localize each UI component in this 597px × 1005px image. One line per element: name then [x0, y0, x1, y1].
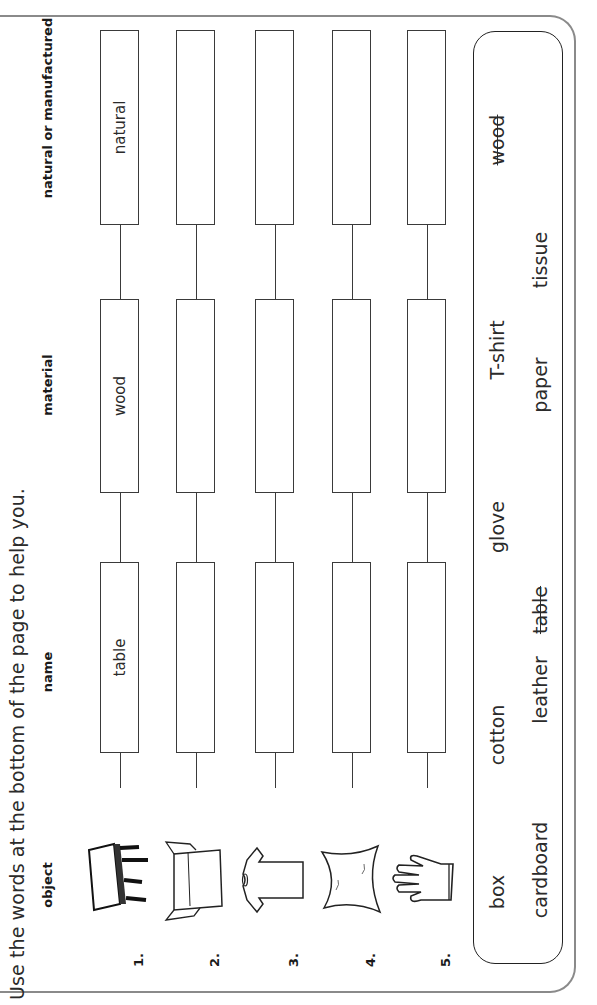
word-bank-word: T-shirt [486, 320, 508, 379]
natural-or-manufactured-answer-box[interactable] [332, 30, 371, 225]
natural-or-manufactured-answer-box[interactable]: natural [100, 30, 139, 225]
connector-line [427, 493, 428, 562]
material-answer-box[interactable] [176, 299, 215, 493]
material-answer: wood [111, 376, 129, 416]
row-number: 1. [130, 953, 145, 967]
connector-line [427, 753, 428, 788]
table-icon [84, 825, 154, 935]
material-answer-box[interactable] [407, 299, 446, 493]
row-number: 3. [285, 953, 300, 967]
name-answer-box[interactable] [255, 562, 294, 753]
word-bank-word: wood [486, 115, 508, 166]
natural-or-manufactured-answer-box[interactable] [255, 30, 294, 225]
connector-line [196, 493, 197, 562]
word-bank-word: table [529, 586, 551, 634]
material-answer-box[interactable] [255, 299, 294, 493]
word-bank-word: paper [529, 357, 551, 412]
t-shirt-icon [239, 825, 309, 935]
row-number: 2. [206, 953, 221, 967]
material-answer-box[interactable]: wood [100, 299, 139, 493]
tissue-icon [316, 825, 386, 935]
name-answer-box[interactable] [332, 562, 371, 753]
instruction-text: Use the words at the bottom of the page … [6, 488, 28, 1000]
connector-line [120, 753, 121, 788]
word-bank-word: glove [486, 501, 508, 553]
connector-line [196, 753, 197, 788]
header-natural-or-manufactured: natural or manufactured [40, 18, 55, 199]
connector-line [120, 493, 121, 562]
natural-or-manufactured-answer: natural [111, 101, 129, 155]
worksheet-page: Use the words at the bottom of the page … [0, 0, 597, 1005]
word-bank-word: leather [529, 656, 551, 724]
word-bank-word: cotton [486, 705, 508, 766]
connector-line [427, 225, 428, 299]
name-answer-box[interactable] [176, 562, 215, 753]
box-icon [160, 825, 230, 935]
connector-line [352, 225, 353, 299]
name-answer-box[interactable]: table [100, 562, 139, 753]
word-bank-word: cardboard [529, 822, 551, 919]
header-object: object [40, 862, 55, 907]
row-number: 4. [362, 953, 377, 967]
row-number: 5. [437, 953, 452, 967]
glove-icon [391, 825, 461, 935]
connector-line [275, 753, 276, 788]
header-material: material [40, 354, 55, 415]
header-name: name [40, 652, 55, 692]
connector-line [352, 753, 353, 788]
connector-line [352, 493, 353, 562]
name-answer-box[interactable] [407, 562, 446, 753]
connector-line [275, 493, 276, 562]
word-bank-word: tissue [529, 232, 551, 288]
natural-or-manufactured-answer-box[interactable] [407, 30, 446, 225]
connector-line [196, 225, 197, 299]
natural-or-manufactured-answer-box[interactable] [176, 30, 215, 225]
connector-line [275, 225, 276, 299]
word-bank-word: box [486, 875, 508, 909]
name-answer: table [111, 639, 129, 677]
connector-line [120, 225, 121, 299]
material-answer-box[interactable] [332, 299, 371, 493]
